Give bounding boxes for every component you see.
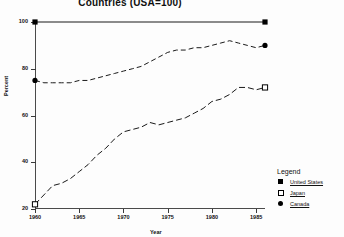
- x-tick: [123, 209, 124, 213]
- x-tick-label: 1985: [250, 214, 262, 220]
- x-tick: [168, 209, 169, 213]
- x-tick-label: 1960: [29, 214, 41, 220]
- y-tick-label: 40: [22, 158, 28, 164]
- legend-label: Japan: [290, 190, 305, 196]
- series-marker-canada: [32, 78, 37, 83]
- x-tick-label: 1965: [73, 214, 85, 220]
- plot-area: 20406080100 196019651970197519801985: [35, 22, 265, 209]
- series-line-japan: [35, 87, 265, 204]
- x-tick-label: 1980: [206, 214, 218, 220]
- y-axis-title: Percent: [3, 76, 9, 96]
- legend-label: United States: [290, 179, 323, 185]
- series-marker-japan: [32, 202, 37, 207]
- series-line-canada: [35, 41, 265, 83]
- y-tick-label: 100: [19, 18, 28, 24]
- series-marker-united-states: [262, 19, 267, 24]
- x-tick-label: 1975: [162, 214, 174, 220]
- x-tick: [256, 209, 257, 213]
- x-tick: [35, 209, 36, 213]
- legend-entries: United StatesJapanCanada: [277, 178, 344, 208]
- y-tick-label: 60: [22, 112, 28, 118]
- series-marker-canada: [262, 43, 267, 48]
- legend-item-canada[interactable]: Canada: [277, 200, 344, 208]
- legend-title: Legend: [277, 168, 344, 175]
- legend: Legend United StatesJapanCanada: [277, 168, 344, 211]
- x-axis-title: Year: [150, 229, 162, 235]
- x-tick: [79, 209, 80, 213]
- legend-item-japan[interactable]: Japan: [277, 189, 344, 197]
- series-marker-japan: [262, 85, 267, 90]
- legend-item-united-states[interactable]: United States: [277, 178, 344, 186]
- series-marker-united-states: [32, 19, 37, 24]
- legend-label: Canada: [290, 201, 309, 207]
- filled-square-icon: [277, 178, 287, 186]
- chart-figure: Countries (USA=100) Percent Year 2040608…: [0, 0, 344, 237]
- y-tick-label: 20: [22, 205, 28, 211]
- filled-circle-icon: [277, 200, 287, 208]
- y-tick-label: 80: [22, 65, 28, 71]
- open-square-icon: [277, 189, 287, 197]
- chart-title: Countries (USA=100): [0, 0, 260, 8]
- x-tick-label: 1970: [117, 214, 129, 220]
- series-lines: [35, 22, 265, 209]
- x-tick: [212, 209, 213, 213]
